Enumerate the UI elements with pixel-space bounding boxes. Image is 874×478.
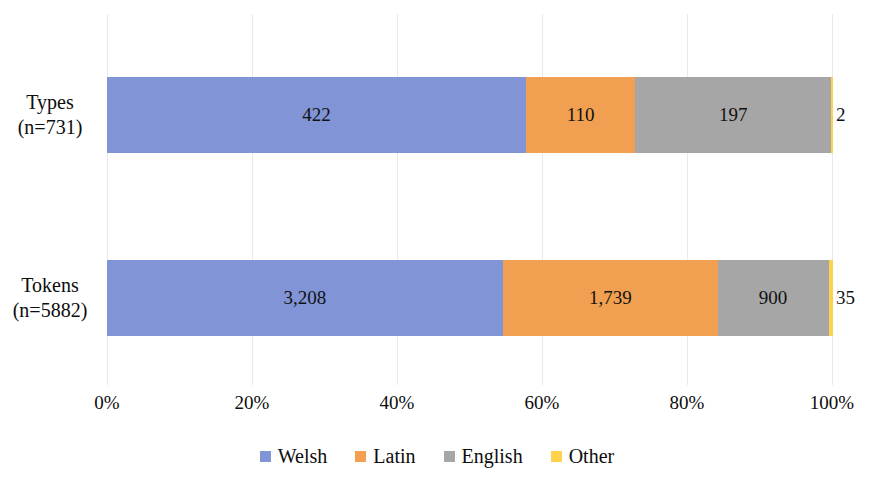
category-label-types-line2: (n=731) — [0, 115, 100, 140]
xtick-60: 60% — [502, 392, 582, 414]
legend-item-english[interactable]: English — [444, 444, 523, 468]
xtick-100: 100% — [792, 392, 872, 414]
category-label-tokens: Tokens (n=5882) — [0, 273, 100, 323]
legend-item-latin[interactable]: Latin — [355, 444, 415, 468]
legend-label-latin: Latin — [373, 444, 415, 468]
xtick-80: 80% — [647, 392, 727, 414]
bar-value-label-tokens-other: 35 — [836, 288, 855, 308]
legend-swatch-english-icon — [444, 451, 455, 462]
legend-item-other[interactable]: Other — [551, 444, 615, 468]
bar-value-label-tokens-english: 900 — [718, 288, 829, 308]
bar-value-label-tokens-welsh: 3,208 — [107, 288, 503, 308]
stacked-bar-chart: Types (n=731) Tokens (n=5882) 4221101972… — [0, 0, 874, 478]
legend-label-welsh: Welsh — [278, 444, 328, 468]
category-label-tokens-line1: Tokens — [0, 273, 100, 298]
legend-swatch-welsh-icon — [260, 451, 271, 462]
legend-label-english: English — [462, 444, 523, 468]
bar-value-label-types-latin: 110 — [526, 105, 635, 125]
xtick-20: 20% — [212, 392, 292, 414]
category-label-types-line1: Types — [0, 90, 100, 115]
xtick-0: 0% — [67, 392, 147, 414]
xtick-40: 40% — [357, 392, 437, 414]
category-label-tokens-line2: (n=5882) — [0, 298, 100, 323]
legend-label-other: Other — [569, 444, 615, 468]
category-label-types: Types (n=731) — [0, 90, 100, 140]
bar-segment-types-other — [831, 77, 833, 153]
bar-value-label-tokens-latin: 1,739 — [503, 288, 718, 308]
bar-tokens: 3,2081,73990035 — [107, 260, 833, 336]
bar-value-label-types-welsh: 422 — [107, 105, 526, 125]
bar-segment-tokens-other — [829, 260, 833, 336]
bar-types: 4221101972 — [107, 77, 833, 153]
legend: WelshLatinEnglishOther — [0, 444, 874, 468]
legend-swatch-latin-icon — [355, 451, 366, 462]
bar-value-label-types-other: 2 — [836, 105, 846, 125]
legend-item-welsh[interactable]: Welsh — [260, 444, 328, 468]
legend-swatch-other-icon — [551, 451, 562, 462]
bar-value-label-types-english: 197 — [635, 105, 831, 125]
